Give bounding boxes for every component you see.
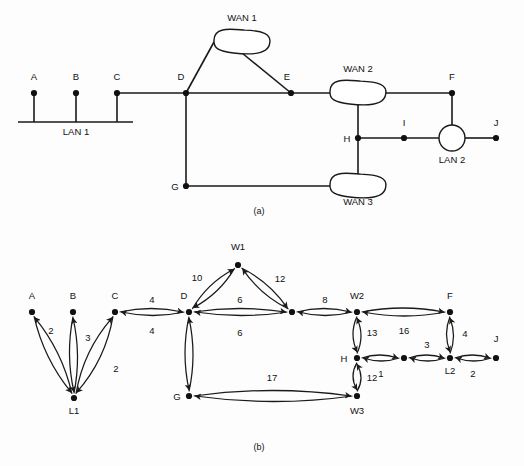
graph-node-dot-j bbox=[493, 355, 499, 361]
node-label-d: D bbox=[178, 71, 185, 82]
node-label-h: H bbox=[344, 133, 351, 144]
edge-weight-w1-e: 12 bbox=[275, 273, 286, 284]
node-dot-b bbox=[73, 90, 79, 96]
graph-node-label-c: C bbox=[112, 290, 119, 301]
edge-weight-g-w3: 17 bbox=[267, 372, 278, 383]
graph-node-dot-i bbox=[401, 355, 407, 361]
graph-node-label-w3: W3 bbox=[350, 405, 364, 416]
node-label-f: F bbox=[449, 71, 455, 82]
node-label-b: B bbox=[73, 71, 79, 82]
graph-node-label-g: G bbox=[173, 391, 180, 402]
graph-node-label-w1: W1 bbox=[231, 241, 245, 252]
edge-weight-j-l2: 2 bbox=[470, 368, 475, 379]
lan2-label: LAN 2 bbox=[439, 154, 465, 165]
panel-b-caption: (b) bbox=[254, 442, 265, 452]
edge-weight-e-w2: 8 bbox=[322, 294, 327, 305]
edge-weight-f-w2: 16 bbox=[399, 325, 410, 336]
edge-weight-d-e: 6 bbox=[237, 294, 242, 305]
graph-node-label-j: J bbox=[494, 333, 499, 344]
graph-node-label-a: A bbox=[29, 290, 36, 301]
graph-node-label-l2: L2 bbox=[445, 365, 456, 376]
node-label-c: C bbox=[114, 71, 121, 82]
graph-node-label-b: B bbox=[70, 290, 76, 301]
graph-node-dot-f bbox=[447, 309, 453, 315]
node-label-j: J bbox=[494, 117, 499, 128]
node-dot-d bbox=[183, 90, 189, 96]
graph-node-dot-w1 bbox=[235, 262, 241, 268]
wan-cloud-wan3 bbox=[330, 173, 386, 198]
wan-cloud-wan1 bbox=[214, 29, 270, 54]
edge-weight-w3-h: 12 bbox=[367, 372, 378, 383]
graph-node-label-f: F bbox=[447, 290, 453, 301]
node-dot-g bbox=[183, 183, 189, 189]
graph-node-dot-h bbox=[354, 355, 360, 361]
graph-node-label-d: D bbox=[181, 290, 188, 301]
node-dot-c bbox=[114, 90, 120, 96]
edge-weight-d-w1: 10 bbox=[192, 272, 203, 283]
node-dot-i bbox=[401, 135, 407, 141]
graph-node-dot-l1 bbox=[71, 395, 77, 401]
edge-weight-h-w2: 13 bbox=[367, 327, 378, 338]
graph-node-dot-e bbox=[289, 309, 295, 315]
panel-a-caption: (a) bbox=[254, 206, 265, 216]
node-dot-h bbox=[355, 135, 361, 141]
wan-cloud-wan2 bbox=[330, 80, 386, 105]
node-label-a: A bbox=[31, 71, 38, 82]
edge-weight-d-c: 4 bbox=[149, 325, 154, 336]
graph-node-label-w2: W2 bbox=[350, 290, 364, 301]
graph-node-dot-d bbox=[186, 309, 192, 315]
edge-weight-e-d: 6 bbox=[237, 327, 242, 338]
wan-label-wan2: WAN 2 bbox=[343, 63, 373, 74]
graph-node-label-h: H bbox=[341, 353, 348, 364]
graph-node-dot-b bbox=[70, 309, 76, 315]
edge-weight-c-l1: 2 bbox=[113, 363, 118, 374]
lan1-label: LAN 1 bbox=[63, 126, 89, 137]
graph-node-dot-c bbox=[112, 309, 118, 315]
edge-weight-i-l2: 3 bbox=[424, 339, 429, 350]
network-figure: LAN 1WAN 1WAN 2WAN 3LAN 2ABCDEFGHIJ 2324… bbox=[0, 0, 524, 466]
graph-node-dot-w3 bbox=[354, 393, 360, 399]
graph-node-dot-a bbox=[29, 309, 35, 315]
edge-weight-f-l2: 4 bbox=[462, 328, 467, 339]
node-dot-e bbox=[288, 90, 294, 96]
graph-node-dot-g bbox=[186, 393, 192, 399]
node-dot-f bbox=[449, 90, 455, 96]
node-label-e: E bbox=[284, 71, 290, 82]
edge-weight-a-l1: 2 bbox=[48, 325, 53, 336]
node-dot-a bbox=[31, 90, 37, 96]
edge-weight-i-h: 1 bbox=[378, 368, 383, 379]
node-label-g: G bbox=[171, 181, 178, 192]
graph-node-label-l1: L1 bbox=[69, 405, 80, 416]
node-label-i: I bbox=[403, 117, 406, 128]
graph-node-dot-w2 bbox=[354, 309, 360, 315]
edge-weight-b-l1: 3 bbox=[85, 332, 90, 343]
graph-node-dot-l2 bbox=[447, 355, 453, 361]
edge-weight-c-d: 4 bbox=[149, 294, 154, 305]
wan-label-wan1: WAN 1 bbox=[227, 12, 257, 23]
wan-label-wan3: WAN 3 bbox=[343, 196, 373, 207]
node-dot-j bbox=[493, 135, 499, 141]
lan2-circle bbox=[439, 125, 465, 151]
